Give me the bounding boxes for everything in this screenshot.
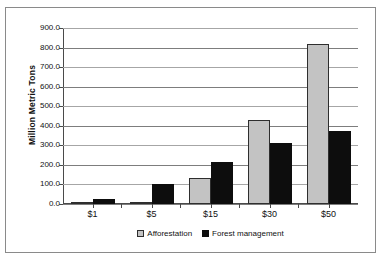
x-axis-group-separator — [298, 204, 299, 208]
y-axis-tick-label: 500.0 — [14, 101, 60, 110]
bar-forest-management[interactable] — [93, 199, 115, 204]
x-axis-group-separator — [121, 204, 122, 208]
bar-group — [63, 28, 122, 204]
bar-afforestation[interactable] — [130, 202, 152, 204]
x-axis-tick-label: $15 — [181, 209, 240, 219]
bar-afforestation[interactable] — [189, 178, 211, 204]
bar-groups — [63, 28, 358, 204]
y-axis-tick-label: 100.0 — [14, 179, 60, 188]
x-axis-tick-label: $1 — [63, 209, 122, 219]
chart-legend: AfforestationForest management — [63, 229, 358, 238]
legend-item[interactable]: Forest management — [202, 229, 284, 238]
bar-forest-management[interactable] — [211, 162, 233, 204]
y-axis-tick-mark — [59, 184, 63, 185]
y-axis-tick-mark — [59, 106, 63, 107]
y-axis-tick-label: 600.0 — [14, 82, 60, 91]
bar-forest-management[interactable] — [270, 143, 292, 204]
legend-label: Forest management — [212, 229, 284, 238]
y-axis-tick-mark — [59, 165, 63, 166]
y-axis-tick-label: 700.0 — [14, 62, 60, 71]
y-axis-tick-mark — [59, 204, 63, 205]
x-axis-tick-label: $30 — [240, 209, 299, 219]
bar-group — [122, 28, 181, 204]
bar-afforestation[interactable] — [307, 44, 329, 204]
bar-afforestation[interactable] — [248, 120, 270, 204]
bar-forest-management[interactable] — [152, 184, 174, 204]
bar-group — [299, 28, 358, 204]
legend-swatch-icon — [202, 230, 209, 237]
x-axis-tick-mark — [152, 204, 153, 208]
y-axis-tick-mark — [59, 87, 63, 88]
x-axis-tick-mark — [211, 204, 212, 208]
y-axis-tick-label: 800.0 — [14, 43, 60, 52]
y-axis-tick-mark — [59, 145, 63, 146]
y-axis-tick-label: 300.0 — [14, 140, 60, 149]
x-axis-tick-label: $5 — [122, 209, 181, 219]
legend-label: Afforestation — [147, 229, 192, 238]
y-axis-tick-mark — [59, 126, 63, 127]
x-axis-group-separator — [180, 204, 181, 208]
x-axis-tick-label: $50 — [299, 209, 358, 219]
x-axis-tick-labels: $1$5$15$30$50 — [63, 209, 358, 219]
legend-swatch-icon — [137, 230, 144, 237]
x-axis-group-separator — [239, 204, 240, 208]
y-axis-tick-label: 400.0 — [14, 121, 60, 130]
y-axis-tick-label: 0.0 — [14, 199, 60, 208]
bar-forest-management[interactable] — [329, 131, 351, 204]
bar-group — [240, 28, 299, 204]
y-axis-tick-label: 200.0 — [14, 160, 60, 169]
bar-group — [181, 28, 240, 204]
x-axis-tick-mark — [93, 204, 94, 208]
x-axis-tick-mark — [270, 204, 271, 208]
y-axis-tick-mark — [59, 48, 63, 49]
legend-item[interactable]: Afforestation — [137, 229, 192, 238]
y-axis-tick-mark — [59, 67, 63, 68]
bar-afforestation[interactable] — [71, 202, 93, 204]
x-axis-tick-mark — [329, 204, 330, 208]
chart-root: Million Metric Tons 0.0100.0200.0300.040… — [0, 0, 384, 260]
plot-area — [63, 28, 358, 204]
y-axis-tick-mark — [59, 28, 63, 29]
y-axis-tick-label: 900.0 — [14, 23, 60, 32]
